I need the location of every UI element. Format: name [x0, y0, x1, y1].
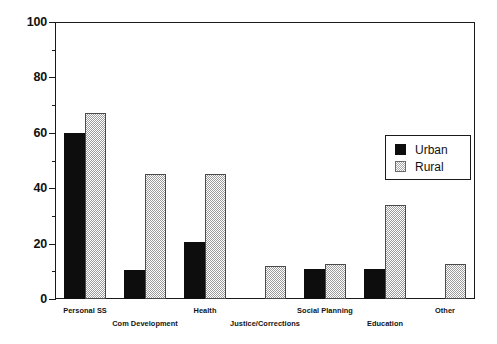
legend: Urban Rural — [385, 135, 471, 180]
legend-label-rural: Rural — [415, 161, 444, 173]
x-axis-label-justice-corrections: Justice/Corrections — [230, 320, 300, 327]
x-axis-label-other: Other — [435, 307, 455, 314]
legend-swatch-urban-icon — [395, 144, 406, 155]
x-axis-label-education: Education — [367, 320, 403, 327]
legend-item-rural: Rural — [395, 158, 470, 175]
x-axis-label-com-development: Com Development — [112, 320, 178, 327]
x-axis-label-health: Health — [194, 307, 217, 314]
legend-swatch-rural-icon — [395, 161, 406, 172]
x-axis-label-personal-ss: Personal SS — [63, 307, 107, 314]
x-axis-label-social-planning: Social Planning — [297, 307, 353, 314]
legend-label-urban: Urban — [415, 144, 448, 156]
bar-chart: 020406080100 Personal SSCom DevelopmentH… — [0, 0, 497, 344]
legend-item-urban: Urban — [395, 141, 470, 158]
